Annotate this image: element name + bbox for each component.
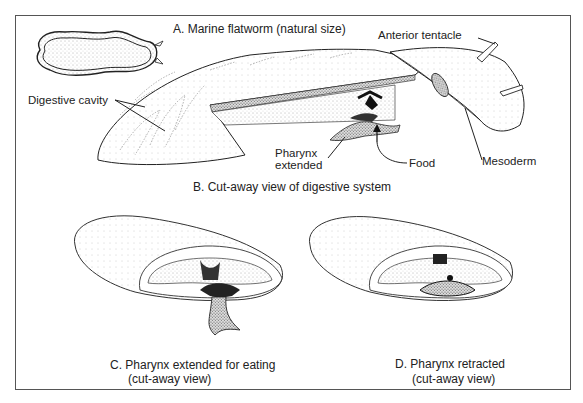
label-digestive-cavity: Digestive cavity — [28, 94, 108, 107]
caption-c-line1: C. Pharynx extended for eating — [110, 358, 275, 372]
caption-b: B. Cut-away view of digestive system — [193, 180, 391, 194]
flatworm-whole — [37, 31, 163, 75]
panel-d-body — [309, 217, 512, 301]
label-anterior-tentacle: Anterior tentacle — [378, 29, 462, 42]
caption-c-line2: (cut-away view) — [128, 372, 211, 386]
label-pharynx-line2: extended — [275, 159, 322, 172]
caption-d-line1: D. Pharynx retracted — [395, 357, 505, 371]
flatworm-illustration — [0, 0, 583, 403]
cutaway-body-anterior — [390, 42, 524, 131]
label-food: Food — [409, 157, 435, 170]
label-mesoderm: Mesoderm — [482, 155, 536, 168]
caption-d-line2: (cut-away view) — [412, 372, 495, 386]
caption-a: A. Marine flatworm (natural size) — [173, 22, 346, 36]
panel-c-body — [74, 216, 282, 335]
